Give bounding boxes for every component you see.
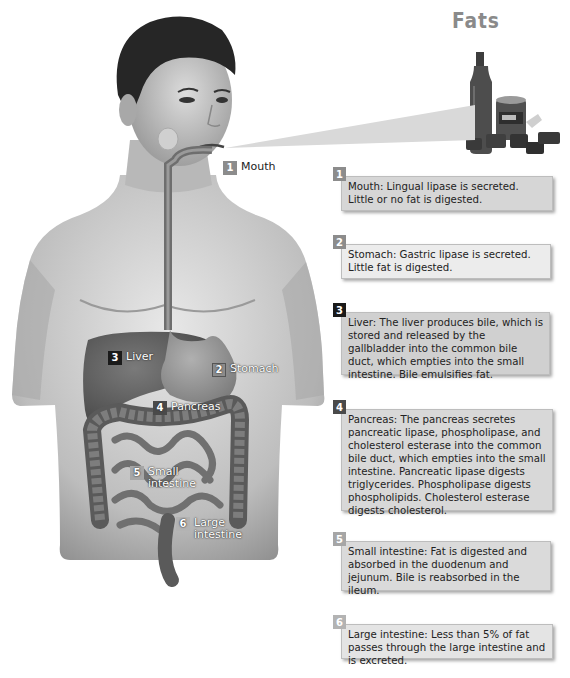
number-badge: 6 <box>176 517 190 531</box>
number-badge: 2 <box>333 235 346 249</box>
figure-label-large-intestine: 6 Large intestine <box>176 517 242 541</box>
step-description: Large intestine: Less than 5% of fat pas… <box>341 624 553 659</box>
number-badge: 2 <box>212 363 226 377</box>
diagram-title: Fats <box>452 8 500 33</box>
figure-label-liver: 3 Liver <box>108 351 153 365</box>
fat-foods-illustration <box>466 38 570 158</box>
number-badge: 3 <box>108 351 122 365</box>
number-badge: 6 <box>333 615 346 629</box>
number-badge: 5 <box>130 466 144 480</box>
number-badge: 3 <box>333 303 346 317</box>
step-description: Pancreas: The pancreas secretes pancreat… <box>341 409 553 511</box>
step-description: Mouth: Lingual lipase is secreted. Littl… <box>341 176 553 211</box>
number-badge: 4 <box>333 400 346 414</box>
number-badge: 1 <box>223 161 237 175</box>
number-badge: 4 <box>153 401 167 415</box>
figure-label-small-intestine: 5 Small intestine <box>130 466 196 490</box>
figure-label-mouth: 1 Mouth <box>223 161 275 175</box>
step-description: Small intestine: Fat is digested and abs… <box>341 541 551 591</box>
figure-label-pancreas: 4 Pancreas <box>153 401 220 415</box>
human-digestive-system-illustration <box>0 0 330 620</box>
step-description: Stomach: Gastric lipase is secreted. Lit… <box>341 244 551 279</box>
number-badge: 5 <box>333 532 346 546</box>
number-badge: 1 <box>333 167 346 181</box>
figure-label-stomach: 2 Stomach <box>212 363 279 377</box>
step-description: Liver: The liver produces bile, which is… <box>341 312 550 375</box>
